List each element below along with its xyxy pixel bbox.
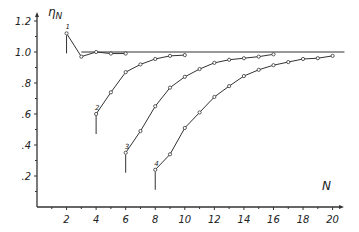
series-2: 2 bbox=[95, 54, 187, 135]
y-tick-label: .4 bbox=[21, 140, 31, 151]
data-point bbox=[168, 86, 171, 89]
series-line bbox=[155, 56, 332, 170]
x-axis-title: N bbox=[322, 179, 331, 193]
data-point bbox=[109, 91, 112, 94]
data-point bbox=[242, 74, 245, 77]
data-point bbox=[228, 85, 231, 88]
data-point bbox=[213, 95, 216, 98]
data-point bbox=[124, 52, 127, 55]
y-tick-label: 1.2 bbox=[15, 16, 31, 27]
data-point bbox=[65, 32, 68, 35]
data-point bbox=[228, 58, 231, 61]
x-tick-label: 14 bbox=[238, 214, 251, 225]
data-point bbox=[154, 57, 157, 60]
data-point bbox=[316, 57, 319, 60]
data-point bbox=[124, 71, 127, 74]
x-tick-label: 12 bbox=[208, 214, 221, 225]
data-point bbox=[213, 61, 216, 64]
data-point bbox=[242, 57, 245, 60]
data-point bbox=[124, 151, 127, 154]
x-tick-label: 16 bbox=[267, 214, 280, 225]
x-tick-label: 2 bbox=[63, 214, 69, 225]
series-label: 4 bbox=[154, 160, 158, 168]
x-tick-label: 10 bbox=[178, 214, 191, 225]
y-axis-arrow-icon bbox=[35, 12, 39, 17]
series-1: 1 bbox=[65, 23, 127, 58]
chart: 2468101214161820.2.4.6.81.01.2 1234 ηN N bbox=[0, 0, 359, 232]
series-4: 4 bbox=[154, 54, 335, 190]
series-label: 1 bbox=[66, 23, 70, 31]
data-point bbox=[198, 67, 201, 70]
data-point bbox=[198, 111, 201, 114]
data-point bbox=[183, 54, 186, 57]
data-point bbox=[168, 54, 171, 57]
series-label: 3 bbox=[125, 143, 129, 151]
y-axis-title: ηN bbox=[48, 5, 63, 21]
y-tick-label: 1.0 bbox=[15, 47, 31, 58]
series-label: 2 bbox=[95, 104, 100, 112]
data-point bbox=[257, 68, 260, 71]
x-tick-label: 20 bbox=[326, 214, 339, 225]
data-point bbox=[168, 153, 171, 156]
data-point bbox=[80, 55, 83, 58]
data-point bbox=[139, 129, 142, 132]
data-point bbox=[287, 60, 290, 63]
x-axis-arrow-icon bbox=[339, 205, 344, 209]
data-point bbox=[109, 52, 112, 55]
data-point bbox=[272, 53, 275, 56]
data-point bbox=[95, 112, 98, 115]
data-point bbox=[301, 57, 304, 60]
x-tick-label: 8 bbox=[152, 214, 158, 225]
x-tick-label: 18 bbox=[297, 214, 310, 225]
x-tick-label: 4 bbox=[93, 214, 99, 225]
data-point bbox=[183, 75, 186, 78]
axes: 2468101214161820.2.4.6.81.01.2 bbox=[15, 12, 344, 225]
series-group: 1234 bbox=[65, 23, 334, 189]
data-point bbox=[257, 55, 260, 58]
y-tick-label: .2 bbox=[21, 171, 31, 182]
data-point bbox=[272, 64, 275, 67]
line-chart: 2468101214161820.2.4.6.81.01.2 1234 ηN N bbox=[0, 0, 359, 232]
x-tick-label: 6 bbox=[122, 214, 128, 225]
data-point bbox=[95, 50, 98, 53]
y-tick-label: .6 bbox=[21, 109, 31, 120]
data-point bbox=[183, 126, 186, 129]
data-point bbox=[154, 168, 157, 171]
data-point bbox=[331, 54, 334, 57]
y-tick-label: .8 bbox=[21, 78, 31, 89]
data-point bbox=[139, 63, 142, 66]
data-point bbox=[154, 105, 157, 108]
